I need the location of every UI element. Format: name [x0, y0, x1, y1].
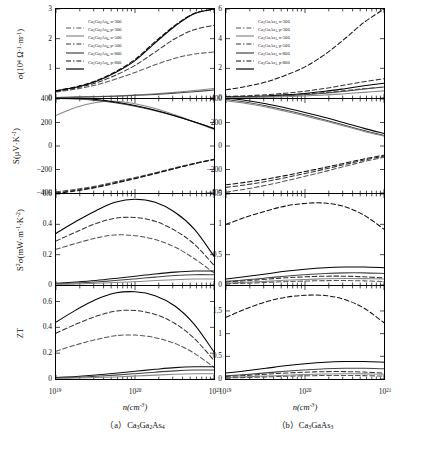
curve-n-800: [56, 199, 214, 256]
y-ticks-inner: [226, 194, 384, 285]
curve-p-300: [226, 101, 384, 136]
legend-line-swatch-icon: [236, 43, 254, 51]
column-ca3gaas3: 0246Ca3GaAs3, n-300Ca3GaAs3, p-300Ca3GaA…: [225, 8, 385, 380]
a-seebeck-y-tick-1: −200: [37, 166, 52, 174]
y-ticks-inner: [56, 302, 214, 380]
x-axis-a: 1019 1020 1021 n(cm-3) （a）Ca3Ga2As4: [55, 380, 215, 420]
panel-b-seebeck: −400−2000200400: [225, 98, 385, 193]
b-zt-plot: [226, 286, 384, 379]
legend-line-swatch-icon: [66, 43, 84, 51]
legend-line-swatch-icon: [236, 26, 254, 34]
panel-b-powerfactor: 00.511.5: [225, 193, 385, 285]
legend-a-label: Ca3Ga2As4, p-500: [88, 43, 121, 50]
panel-b-sigma: 0246Ca3GaAs3, n-300Ca3GaAs3, p-300Ca3GaA…: [225, 8, 385, 98]
a-zt-plot: [56, 286, 214, 379]
b-powerfactor-plot: [226, 194, 384, 285]
legend-a-item: Ca3Ga2As4, p-500: [66, 43, 121, 51]
a-powerfactor-y-tick-3: 0.6: [43, 190, 52, 198]
legend-b-label: Ca3GaAs3, n-500: [258, 35, 290, 42]
a-zt-y-tick-1: 0.2: [43, 349, 52, 357]
b-zt-y-tick-0: 0: [218, 375, 222, 383]
legend-b-item: Ca3GaAs3, n-800: [236, 51, 290, 59]
curve-n-800: [226, 203, 384, 229]
legend-line-swatch-icon: [236, 51, 254, 59]
a-zt-y-tick-3: 0.6: [43, 298, 52, 306]
curve-n-800: [226, 155, 384, 185]
a-seebeck-y-tick-4: 400: [41, 95, 52, 103]
subcaption-b: （b）Ca3GaAs3: [277, 418, 334, 430]
b-sigma-y-tick-2: 4: [218, 35, 222, 43]
legend-line-swatch-icon: [236, 18, 254, 26]
legend-line-swatch-icon: [66, 59, 84, 67]
legend-a-item: Ca3Ga2As4, n-500: [66, 34, 121, 42]
legend-a-label: Ca3Ga2As4, p-300: [88, 27, 121, 34]
legend-line-swatch-icon: [66, 26, 84, 34]
legend-b-label: Ca3GaAs3, n-300: [258, 19, 290, 26]
legend-b-item: Ca3GaAs3, p-500: [236, 43, 290, 51]
a-powerfactor-y-tick-0: 0: [48, 281, 52, 289]
legend-a-label: Ca3Ga2As4, n-500: [88, 35, 121, 42]
legend-line-swatch-icon: [66, 18, 84, 26]
legend-a: Ca3Ga2As4, n-300Ca3Ga2As4, p-300Ca3Ga2As…: [66, 18, 121, 67]
y-axis-title-a-powerfactor: S2σ(mW·m-1·K-2): [15, 208, 25, 270]
legend-line-swatch-icon: [66, 34, 84, 42]
x-minor-ticks: [56, 286, 214, 379]
legend-b-label: Ca3GaAs3, p-300: [258, 27, 290, 34]
curve-p-800: [226, 361, 384, 373]
b-seebeck-plot: [226, 99, 384, 193]
x-tick-a-1: 1020: [129, 386, 142, 396]
legend-a-item: Ca3Ga2As4, p-300: [66, 26, 121, 34]
b-zt-y-tick-2: 1: [218, 330, 222, 338]
legend-b-label: Ca3GaAs3, p-500: [258, 43, 290, 50]
legend-line-swatch-icon: [66, 51, 84, 59]
curve-n-300: [56, 335, 214, 367]
x-minor-ticks: [226, 286, 384, 379]
legend-line-swatch-icon: [236, 34, 254, 42]
y-axis-title-a-zt: ZT: [15, 327, 25, 338]
a-seebeck-plot: [56, 99, 214, 193]
panel-a-zt: 00.20.40.6ZT: [55, 285, 215, 380]
b-powerfactor-y-tick-2: 1: [218, 221, 222, 229]
y-ticks-inner: [226, 99, 384, 193]
legend-b-item: Ca3GaAs3, p-800: [236, 59, 290, 67]
legend-a-item: Ca3Ga2As4, n-300: [66, 18, 121, 26]
x-axis-b: 1019 1020 1021 n(cm-3) （b）Ca3GaAs3: [225, 380, 385, 420]
legend-b-item: Ca3GaAs3, p-300: [236, 26, 290, 34]
a-zt-y-tick-2: 0.4: [43, 324, 52, 332]
b-powerfactor-y-tick-0: 0: [218, 281, 222, 289]
b-seebeck-y-tick-1: −200: [207, 166, 222, 174]
b-sigma-y-tick-3: 6: [218, 5, 222, 13]
y-axis-title-a-sigma: σ(104 Ω-1·m-1): [15, 28, 25, 79]
a-sigma-y-tick-2: 2: [48, 35, 52, 43]
subcaption-a: （a）Ca3Ga2As4: [105, 418, 164, 430]
legend-b-item: Ca3GaAs3, n-300: [236, 18, 290, 26]
x-tick-b-1: 1020: [299, 386, 312, 396]
a-seebeck-y-tick-3: 200: [41, 119, 52, 127]
a-sigma-y-tick-1: 1: [48, 65, 52, 73]
legend-b: Ca3GaAs3, n-300Ca3GaAs3, p-300Ca3GaAs3, …: [236, 18, 290, 67]
x-axis-title-a: n(cm-3): [123, 402, 148, 412]
x-tick-b-2: 1021: [379, 386, 392, 396]
a-seebeck-y-tick-2: 0: [48, 142, 52, 150]
a-zt-y-tick-0: 0: [48, 375, 52, 383]
legend-a-item: Ca3Ga2As4, p-800: [66, 59, 121, 67]
a-powerfactor-plot: [56, 194, 214, 285]
x-minor-ticks: [226, 194, 384, 285]
legend-a-label: Ca3Ga2As4, n-300: [88, 19, 121, 26]
curve-n-800: [56, 292, 214, 352]
a-powerfactor-y-tick-2: 0.4: [43, 221, 52, 229]
b-powerfactor-y-tick-3: 1.5: [213, 190, 222, 198]
panel-a-powerfactor: 00.20.40.6S2σ(mW·m-1·K-2): [55, 193, 215, 285]
b-sigma-y-tick-1: 2: [218, 65, 222, 73]
b-zt-y-tick-1: 0.5: [213, 353, 222, 361]
x-minor-ticks: [226, 99, 384, 193]
legend-line-swatch-icon: [236, 59, 254, 67]
legend-a-label: Ca3Ga2As4, p-800: [88, 60, 121, 67]
x-tick-b-0: 1019: [219, 386, 232, 396]
b-seebeck-y-tick-3: 200: [211, 119, 222, 127]
column-ca3ga2as4: 0123σ(104 Ω-1·m-1)Ca3Ga2As4, n-300Ca3Ga2…: [55, 8, 215, 380]
panel-a-sigma: 0123σ(104 Ω-1·m-1)Ca3Ga2As4, n-300Ca3Ga2…: [55, 8, 215, 98]
thermoelectric-properties-figure: 0123σ(104 Ω-1·m-1)Ca3Ga2As4, n-300Ca3Ga2…: [0, 0, 421, 449]
a-powerfactor-y-tick-1: 0.2: [43, 251, 52, 259]
panel-b-zt: 00.511.5: [225, 285, 385, 380]
